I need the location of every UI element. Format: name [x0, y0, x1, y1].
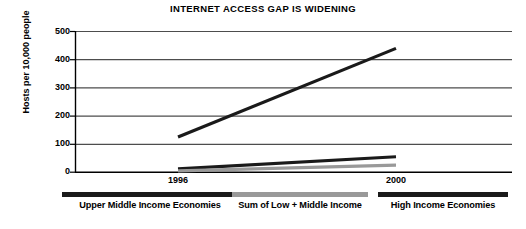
- grid-lines: [75, 32, 512, 145]
- legend-label-upper-middle-income-economies: Upper Middle Income Economies: [62, 200, 238, 210]
- chart-container: INTERNET ACCESS GAP IS WIDENING Hosts pe…: [0, 0, 526, 229]
- x-tick-label-2000: 2000: [386, 175, 406, 185]
- legend-swatch-high-income-economies: [378, 192, 508, 197]
- legend-label-high-income-economies: High Income Economies: [378, 200, 508, 210]
- x-tick-label-1996: 1996: [168, 175, 188, 185]
- y-axis-ticks: [70, 32, 75, 173]
- legend-item-high-income-economies[interactable]: High Income Economies: [378, 192, 508, 210]
- legend-item-sum-of-low-middle-income[interactable]: Sum of Low + Middle Income: [232, 192, 368, 210]
- legend-label-sum-of-low-middle-income: Sum of Low + Middle Income: [232, 200, 368, 210]
- legend-item-upper-middle-income-economies[interactable]: Upper Middle Income Economies: [62, 192, 238, 210]
- data-series-group: [178, 48, 396, 170]
- legend-swatch-sum-of-low-middle-income: [232, 192, 368, 197]
- legend-swatch-upper-middle-income-economies: [62, 192, 238, 197]
- chart-legend: Upper Middle Income Economies Sum of Low…: [0, 192, 526, 229]
- series-line-high-income-economies: [178, 48, 396, 137]
- axis-spines: [75, 31, 512, 173]
